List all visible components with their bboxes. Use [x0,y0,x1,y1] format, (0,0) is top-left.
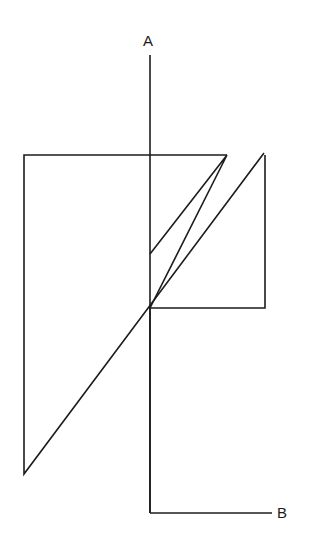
geometric-figure: A B [0,0,315,554]
axis-b-label: B [277,504,287,521]
figure-canvas: A B [0,0,315,554]
right-polygon-path [150,155,265,308]
axis-a-label: A [143,32,153,49]
left-polygon-path [24,153,264,474]
